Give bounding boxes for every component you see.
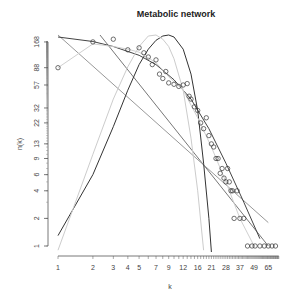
fit-line-5 [58, 44, 254, 246]
data-point [232, 216, 236, 220]
data-point [172, 82, 176, 86]
y-tick-label: 88 [33, 64, 40, 72]
data-point [258, 244, 262, 248]
y-tick-label: 2 [33, 216, 40, 220]
fit-line-1 [58, 35, 268, 223]
fit-line-3 [58, 35, 211, 252]
y-tick-label: 22 [33, 119, 40, 127]
x-tick-label: 65 [264, 264, 272, 271]
data-point [167, 81, 171, 85]
fit-line-0 [100, 35, 268, 246]
y-tick-label: 4 [33, 189, 40, 193]
data-point [212, 145, 216, 149]
x-tick-label: 12 [179, 264, 187, 271]
fit-line-2 [58, 37, 260, 239]
y-tick-label: 1 [33, 244, 40, 248]
x-tick-label: 2 [91, 264, 95, 271]
x-tick-label: 16 [194, 264, 202, 271]
data-point [157, 72, 161, 76]
data-point [207, 133, 211, 137]
x-tick-label: 3 [111, 264, 115, 271]
x-axis-label: k [168, 283, 172, 290]
y-tick-label: 168 [33, 36, 40, 48]
y-tick-label: 13 [33, 140, 40, 148]
x-tick-label: 28 [222, 264, 230, 271]
fit-lines [58, 35, 268, 252]
y-axis-label: n(k) [16, 138, 24, 150]
fit-line-4 [58, 35, 204, 250]
data-point [154, 58, 158, 62]
chart-title: Metabolic network [137, 9, 217, 19]
y-axis: 124691322325788168 [33, 36, 48, 248]
x-tick-label: 5 [137, 264, 141, 271]
data-point [142, 51, 146, 55]
y-tick-label: 9 [33, 156, 40, 160]
chart: Metabolic network 124691322325788168 123… [0, 0, 297, 303]
x-tick-label: 1 [56, 264, 60, 271]
x-tick-label: 37 [236, 264, 244, 271]
x-tick-label: 9 [167, 264, 171, 271]
data-point [245, 244, 249, 248]
data-point [204, 116, 208, 120]
data-point [185, 81, 189, 85]
data-point [161, 76, 165, 80]
data-point [218, 171, 222, 175]
x-tick-label: 7 [154, 264, 158, 271]
y-tick-label: 32 [33, 104, 40, 112]
x-tick-label: 49 [250, 264, 258, 271]
data-point [111, 37, 115, 41]
y-tick-label: 6 [33, 173, 40, 177]
x-axis: 123457912162128374965 [56, 256, 279, 271]
x-tick-label: 21 [208, 264, 216, 271]
x-tick-label: 4 [126, 264, 130, 271]
y-tick-label: 57 [33, 81, 40, 89]
data-points [56, 37, 278, 248]
